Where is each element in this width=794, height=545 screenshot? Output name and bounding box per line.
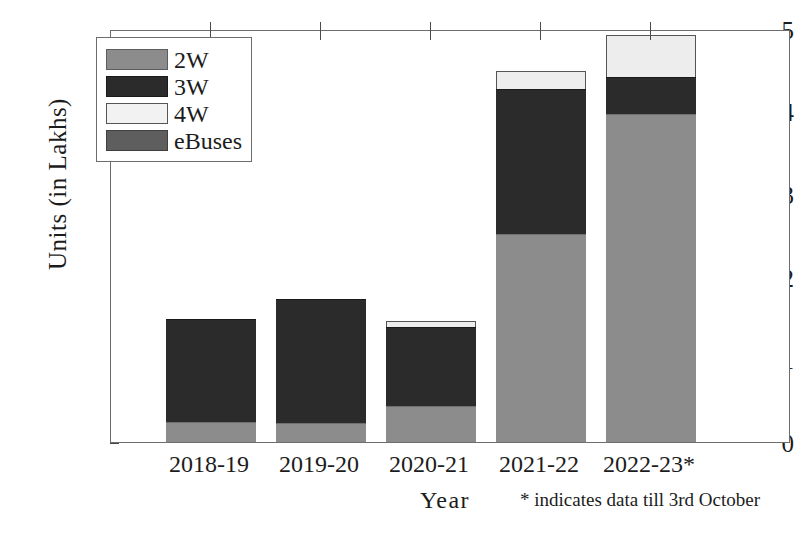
bar-segment-3w: [386, 327, 476, 406]
plot-area: 2W 3W 4W eBuses: [110, 30, 790, 443]
x-tick-label-2022-23: 2022-23*: [584, 452, 714, 476]
bar-segment-3w: [166, 319, 256, 422]
x-axis-title: Year: [385, 487, 505, 514]
legend-swatch-3w: [106, 76, 168, 97]
legend-label-3w: 3W: [174, 75, 209, 99]
bar-2018-19: [166, 319, 256, 442]
bar-segment-4w: [496, 71, 586, 89]
bar-segment-2w: [606, 114, 696, 442]
x-tick-mark-2020-21: [430, 31, 431, 40]
legend-label-4w: 4W: [174, 102, 209, 126]
legend-item-ebuses: eBuses: [106, 127, 242, 154]
bar-2019-20: [276, 299, 366, 442]
bar-2020-21: [386, 321, 476, 442]
legend-label-2w: 2W: [174, 48, 209, 72]
legend-item-2w: 2W: [106, 46, 242, 73]
legend-label-ebuses: eBuses: [174, 129, 242, 153]
chart-legend: 2W 3W 4W eBuses: [96, 37, 252, 162]
bar-2021-22: [496, 71, 586, 442]
x-tick-top-2021-22: [540, 22, 541, 31]
x-tick-top-2018-19: [210, 22, 211, 31]
x-tick-mark-2021-22: [540, 31, 541, 40]
bar-segment-3w: [496, 89, 586, 234]
legend-swatch-ebuses: [106, 130, 168, 151]
y-tick-mark-0: [110, 443, 119, 444]
bar-segment-3w: [606, 77, 696, 114]
legend-swatch-2w: [106, 49, 168, 70]
y-axis-title: Units (in Lakhs): [44, 34, 72, 334]
bar-2022-23: [606, 35, 696, 442]
x-tick-top-2020-21: [430, 22, 431, 31]
bar-segment-4w: [606, 35, 696, 77]
legend-item-4w: 4W: [106, 100, 242, 127]
x-tick-mark-2022-23: [650, 31, 651, 40]
bar-segment-2w: [276, 423, 366, 442]
chart-footnote: * indicates data till 3rd October: [520, 489, 760, 511]
legend-swatch-4w: [106, 103, 168, 124]
bar-segment-2w: [386, 406, 476, 442]
x-tick-top-2022-23: [650, 22, 651, 31]
bar-segment-3w: [276, 299, 366, 423]
bar-segment-2w: [166, 422, 256, 442]
bar-segment-2w: [496, 234, 586, 442]
x-tick-top-2019-20: [320, 22, 321, 31]
legend-item-3w: 3W: [106, 73, 242, 100]
x-tick-mark-2019-20: [320, 31, 321, 40]
chart-figure: Units (in Lakhs) 5 4 3 2 1 0: [0, 0, 794, 545]
